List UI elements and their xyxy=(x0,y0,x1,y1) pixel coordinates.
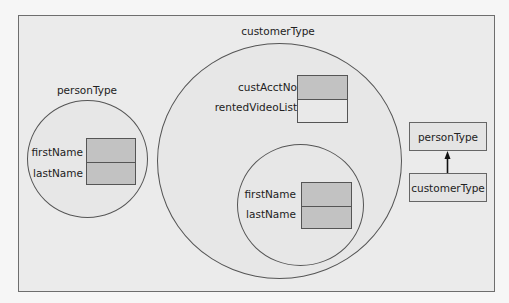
inheritance-arrow-icon xyxy=(0,0,509,303)
